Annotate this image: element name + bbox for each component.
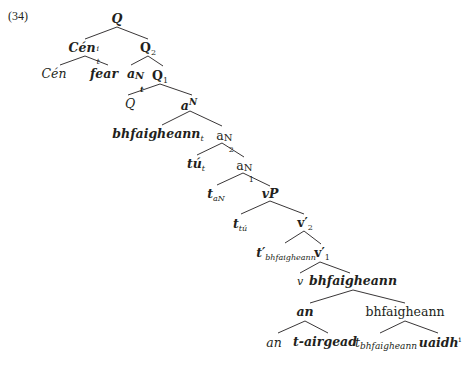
node-cen-leaf: Cén [41, 68, 66, 81]
tree-edge [131, 56, 148, 65]
tree-edge [190, 111, 222, 126]
node-aN: aN [181, 98, 197, 113]
node-t-aN: taN [207, 188, 225, 203]
node-bhfaigheann-plain: bhfaigheann [365, 306, 444, 319]
tree-edge [304, 231, 321, 244]
node-an-leaf: an [266, 337, 282, 350]
node-aN2: aN2 [216, 130, 229, 143]
tree-edge [305, 321, 328, 333]
tree-edge [60, 56, 85, 65]
tree-edge [285, 231, 304, 243]
tree-edge [197, 143, 222, 155]
node-q-root: Q [112, 13, 123, 26]
tree-edge [270, 201, 304, 214]
tree-edge [243, 173, 270, 186]
tree-edge [353, 290, 405, 303]
node-v2: v′2 [297, 217, 313, 232]
tree-edge [117, 27, 148, 39]
tree-edge [85, 27, 117, 39]
node-q2: Q2 [140, 42, 156, 57]
node-cen: Cénit [69, 42, 102, 55]
node-aNt: aNt [127, 68, 141, 81]
node-t-airgead: t-airgead [293, 336, 357, 349]
node-t-bhfaigheann: tbhfaigheann [355, 337, 417, 351]
node-q1: Q1 [152, 70, 168, 85]
tree-edge [162, 111, 190, 125]
tree-edge [128, 84, 160, 95]
tree-edge [278, 321, 305, 333]
tree-edge [217, 173, 243, 185]
node-bhfaigheann-t: bhfaigheannt [112, 128, 203, 143]
node-vP: vP [262, 188, 279, 201]
node-tprime-bhfaigheann: t′bhfaigheann [256, 247, 316, 262]
tree-edge [310, 290, 353, 303]
node-t-tu: ttú [233, 218, 247, 233]
node-v-leaf: v [297, 276, 303, 287]
tree-edge [148, 56, 163, 66]
node-v1: v′1 [314, 247, 330, 262]
node-aN1: aN1 [236, 160, 249, 173]
node-bhfaigheann-mid: bhfaigheann [309, 275, 397, 288]
tree-edge [300, 262, 320, 273]
tree-edge [160, 84, 192, 95]
node-tu-t: tút [187, 158, 205, 173]
tree-edge [405, 321, 438, 333]
tree-edge [320, 262, 350, 273]
tree-edge [380, 321, 405, 333]
tree-edge [241, 201, 270, 214]
node-fear: fear [90, 68, 118, 81]
node-uaidh: uaidhi [419, 336, 461, 350]
node-an: an [296, 306, 313, 319]
node-q-leaf: Q [125, 98, 135, 111]
